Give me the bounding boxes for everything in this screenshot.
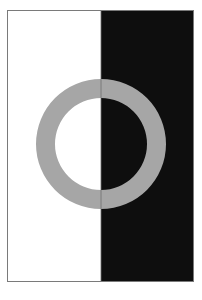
artwork-canvas — [0, 0, 202, 300]
artwork-svg — [0, 0, 202, 300]
